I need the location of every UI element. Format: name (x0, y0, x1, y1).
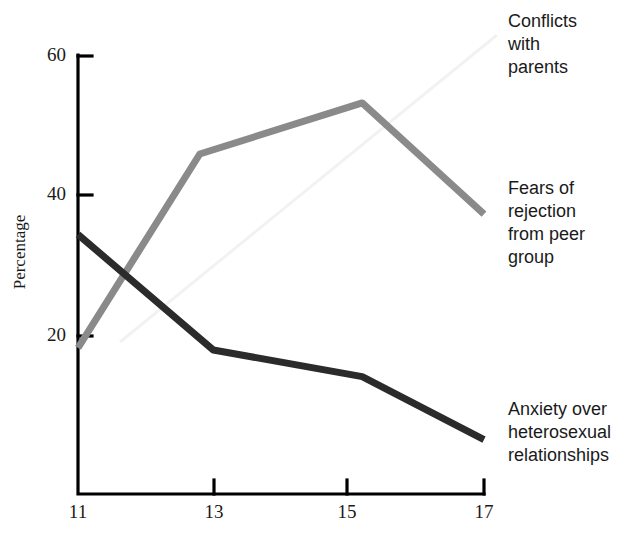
series-label-conflicts-with-parents: Conflicts with parents (508, 10, 619, 79)
line-chart-figure: 60 40 20 11 13 15 17 Percentage Conflict… (0, 0, 619, 533)
y-tick-label-40: 40 (26, 183, 66, 205)
series-label-line: Anxiety over (508, 398, 619, 421)
series-label-fears-of-rejection-from-peer-group: Fears of rejection from peer group (508, 177, 619, 269)
series-label-anxiety-over-heterosexual-relationships: Anxiety over heterosexual relationships (508, 398, 619, 467)
y-tick-label-20: 20 (26, 324, 66, 346)
series-label-line: rejection (508, 200, 619, 223)
axis-lines (78, 55, 484, 494)
series-label-line: from peer (508, 223, 619, 246)
series-line-anxiety-over-heterosexual-relationships (78, 235, 484, 440)
y-axis-title: Percentage (10, 202, 30, 302)
series-label-line: heterosexual (508, 421, 619, 444)
series-label-line: group (508, 246, 619, 269)
series-label-line: with (508, 33, 619, 56)
y-axis-ticks (78, 56, 92, 336)
x-tick-label-11: 11 (56, 501, 100, 523)
series-label-line: Fears of (508, 177, 619, 200)
x-tick-label-17: 17 (462, 501, 506, 523)
series-label-line: relationships (508, 444, 619, 467)
axis-spine (78, 55, 484, 494)
series-line-conflicts-with-parents (78, 103, 484, 348)
x-axis-ticks (214, 480, 484, 494)
y-tick-label-60: 60 (26, 44, 66, 66)
series-label-line: Conflicts (508, 10, 619, 33)
x-tick-label-15: 15 (325, 501, 369, 523)
x-tick-label-13: 13 (192, 501, 236, 523)
series-label-line: parents (508, 56, 619, 79)
